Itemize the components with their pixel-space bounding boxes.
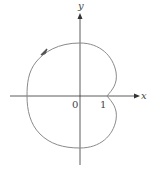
origin-label: 0	[72, 100, 78, 110]
cardioid-curve	[27, 43, 116, 148]
y-axis-label: y	[78, 1, 84, 11]
y-axis	[78, 13, 83, 165]
x-axis-label: x	[141, 91, 147, 101]
x-tick-label: 1	[100, 100, 106, 110]
direction-arrow-icon	[41, 49, 47, 55]
figure-canvas	[0, 0, 152, 172]
x-axis	[10, 94, 140, 99]
